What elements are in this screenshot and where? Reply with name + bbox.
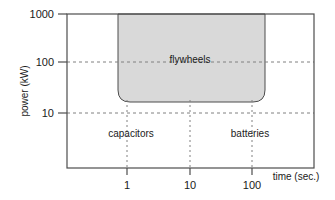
energy-storage-chart: 1000 100 10 1 10 100 power (kW) time (se…: [0, 0, 335, 200]
y-axis-title: power (kW): [19, 65, 30, 116]
capacitors-label: capacitors: [108, 128, 154, 139]
xtick-label-100: 100: [243, 179, 261, 191]
chart-figure: 1000 100 10 1 10 100 power (kW) time (se…: [0, 0, 335, 200]
flywheels-label: flywheels: [169, 54, 210, 65]
xtick-label-10: 10: [184, 179, 196, 191]
xtick-label-1: 1: [124, 179, 130, 191]
x-axis-title: time (sec.): [273, 171, 320, 182]
batteries-label: batteries: [231, 128, 269, 139]
ytick-label-10: 10: [42, 107, 54, 119]
ytick-label-100: 100: [36, 56, 54, 68]
ytick-label-1000: 1000: [30, 8, 54, 20]
